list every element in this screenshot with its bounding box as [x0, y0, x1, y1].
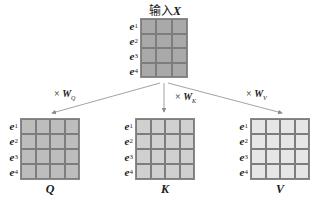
matrix-cell — [136, 164, 151, 179]
matrix-cell — [36, 119, 51, 134]
row-label-e4: e4 — [117, 165, 133, 181]
matrix-cell — [295, 119, 310, 134]
row-label-e3: e3 — [117, 149, 133, 165]
matrix-cell — [165, 149, 180, 164]
matrix-cell — [151, 134, 166, 149]
matrix-q-label: Q — [20, 182, 80, 197]
matrix-cell — [280, 164, 295, 179]
matrix-cell — [295, 134, 310, 149]
matrix-cell — [165, 134, 180, 149]
label-times-wq: × WQ — [54, 88, 75, 101]
matrix-cell — [251, 164, 266, 179]
matrix-cell — [266, 119, 281, 134]
matrix-cell — [136, 134, 151, 149]
matrix-q — [20, 118, 80, 180]
matrix-cell — [280, 134, 295, 149]
matrix-cell — [151, 149, 166, 164]
q-row-labels: e1 e2 e3 e4 — [2, 118, 18, 180]
row-label-e3: e3 — [2, 149, 18, 165]
matrix-v-label: V — [250, 182, 310, 197]
matrix-cell — [21, 164, 36, 179]
matrix-cell — [50, 149, 65, 164]
matrix-cell — [180, 149, 195, 164]
matrix-cell — [136, 149, 151, 164]
matrix-cell — [251, 149, 266, 164]
matrix-cell — [180, 134, 195, 149]
k-row-labels: e1 e2 e3 e4 — [117, 118, 133, 180]
matrix-cell — [65, 164, 80, 179]
matrix-cell — [180, 164, 195, 179]
matrix-cell — [280, 149, 295, 164]
matrix-cell — [151, 164, 166, 179]
label-times-wv: × WV — [246, 88, 267, 101]
matrix-cell — [65, 119, 80, 134]
matrix-cell — [50, 119, 65, 134]
matrix-cell — [295, 149, 310, 164]
matrix-cell — [266, 149, 281, 164]
row-label-e4: e4 — [232, 165, 248, 181]
matrix-cell — [151, 119, 166, 134]
matrix-cell — [266, 164, 281, 179]
matrix-cell — [50, 164, 65, 179]
row-label-e1: e1 — [2, 118, 18, 134]
matrix-cell — [165, 164, 180, 179]
row-label-e1: e1 — [117, 118, 133, 134]
row-label-e4: e4 — [2, 165, 18, 181]
v-row-labels: e1 e2 e3 e4 — [232, 118, 248, 180]
matrix-cell — [165, 119, 180, 134]
matrix-cell — [180, 119, 195, 134]
matrix-cell — [280, 119, 295, 134]
matrix-cell — [50, 134, 65, 149]
matrix-cell — [251, 119, 266, 134]
matrix-cell — [295, 164, 310, 179]
matrix-cell — [266, 134, 281, 149]
matrix-cell — [251, 134, 266, 149]
matrix-k — [135, 118, 195, 180]
matrix-cell — [21, 149, 36, 164]
matrix-cell — [136, 119, 151, 134]
label-times-wk: × WK — [175, 91, 196, 104]
row-label-e2: e2 — [2, 134, 18, 150]
row-label-e3: e3 — [232, 149, 248, 165]
matrix-cell — [65, 149, 80, 164]
matrix-cell — [21, 134, 36, 149]
row-label-e2: e2 — [232, 134, 248, 150]
row-label-e1: e1 — [232, 118, 248, 134]
matrix-cell — [21, 119, 36, 134]
matrix-k-label: K — [135, 182, 195, 197]
matrix-cell — [65, 134, 80, 149]
matrix-cell — [36, 164, 51, 179]
matrix-cell — [36, 149, 51, 164]
matrix-cell — [36, 134, 51, 149]
matrix-v — [250, 118, 310, 180]
row-label-e2: e2 — [117, 134, 133, 150]
